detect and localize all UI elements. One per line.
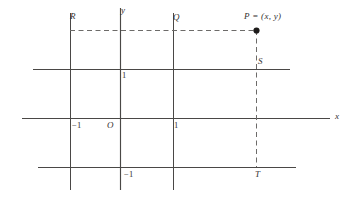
tick-label-x-one: 1 [174, 121, 178, 130]
coordinate-plane-canvas [0, 0, 347, 200]
tick-label-y-one: 1 [122, 71, 126, 80]
tick-label-x-negative-one: −1 [72, 121, 81, 130]
point-label-r: R [70, 12, 76, 21]
origin-label: O [107, 121, 114, 130]
y-axis-label: y [121, 6, 125, 15]
point-label-q: Q [173, 13, 180, 22]
point-label-p: P = (x, y) [244, 12, 281, 21]
point-label-t: T [255, 170, 260, 179]
coordinate-plane-figure: R y Q P = (x, y) S 1 −1 O 1 x −1 T [0, 0, 347, 200]
point-marker-p [253, 27, 259, 33]
tick-label-y-negative-one: −1 [124, 170, 133, 179]
point-label-s: S [258, 57, 263, 66]
x-axis-label: x [335, 112, 339, 121]
